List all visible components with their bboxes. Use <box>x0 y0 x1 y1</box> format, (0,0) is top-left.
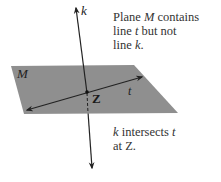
caption-intersects: k intersects t at Z. <box>113 125 221 153</box>
label-z: Z <box>92 91 101 107</box>
label-t: t <box>128 84 131 99</box>
caption-plane-contains: Plane M contains line t but not line k. <box>113 10 221 52</box>
line-k-lower <box>88 112 92 168</box>
label-k: k <box>81 3 87 19</box>
point-z <box>85 90 89 94</box>
label-m: M <box>17 66 28 82</box>
